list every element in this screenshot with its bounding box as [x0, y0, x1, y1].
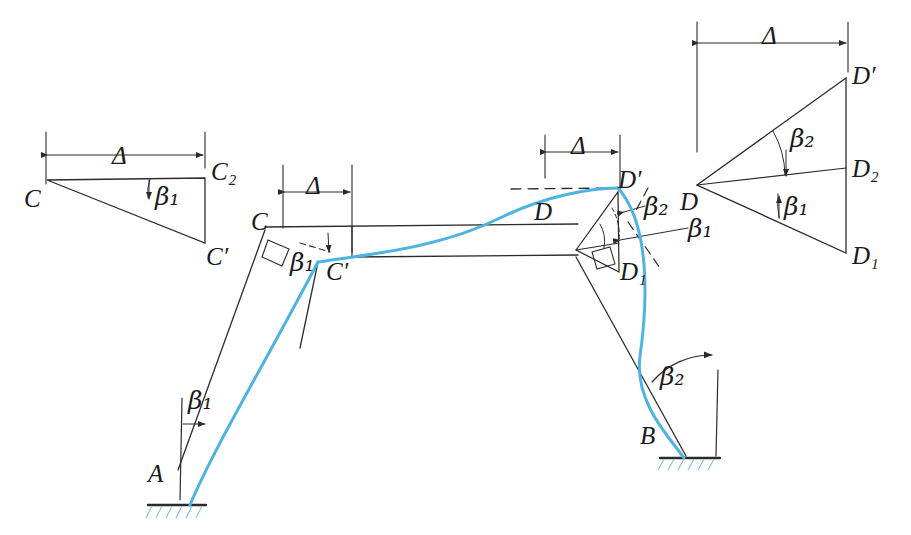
- joint-c-label-left: C: [24, 185, 41, 213]
- frame-right-column: [576, 257, 686, 456]
- deflected-right-column: [618, 188, 684, 458]
- beta2-label-right-triangle: β₂: [790, 124, 814, 153]
- joint-d1-label-right: D₁: [852, 242, 879, 270]
- frame-sidesway-figure: [0, 0, 911, 535]
- joint-d1-label-frame: D₁: [620, 258, 647, 286]
- delta-label-right: Δ: [762, 22, 777, 50]
- joint-c-label-frame: C: [251, 208, 268, 236]
- joint-c2-label: C₂: [211, 158, 236, 186]
- beta1-label-left-triangle: β₁: [155, 182, 179, 211]
- joint-d-label-right: D: [680, 188, 698, 216]
- ground-hatching-b: [658, 459, 714, 470]
- beta1-label-support-a: β₁: [188, 386, 212, 415]
- joint-dprime-label-frame: D′: [618, 166, 642, 194]
- joint-d-label-frame: D: [534, 198, 552, 226]
- displacement-triangle-d: [697, 22, 848, 253]
- beta2-label-joint-d: β₂: [644, 192, 668, 221]
- delta-label-left: Δ: [112, 142, 127, 170]
- beta1-label-joint-c: β₁: [290, 248, 314, 277]
- delta-label-beam-right: Δ: [571, 132, 586, 160]
- beta1-label-joint-d: β₁: [688, 214, 712, 243]
- joint-cprime-label-frame: C′: [326, 258, 348, 286]
- beta1-label-right-triangle: β₁: [784, 192, 808, 221]
- joint-d2-label: D₂: [852, 155, 879, 183]
- delta-label-beam-left: Δ: [306, 172, 321, 200]
- joint-dprime-label-right: D′: [852, 62, 876, 90]
- support-b-label: B: [640, 422, 655, 450]
- ground-hatching-a: [146, 506, 202, 518]
- support-a-label: A: [148, 460, 163, 488]
- joint-cprime-label-left: C′: [206, 243, 228, 271]
- beta2-label-support-b: β₂: [660, 362, 684, 391]
